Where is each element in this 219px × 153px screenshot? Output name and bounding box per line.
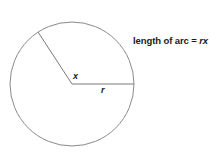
radius-label: r bbox=[101, 86, 105, 95]
formula-prefix: length of arc = bbox=[133, 35, 199, 46]
formula-variable: rx bbox=[199, 35, 208, 46]
angle-label: x bbox=[73, 72, 78, 81]
radius-angled bbox=[38, 32, 72, 84]
circle-diagram bbox=[0, 0, 219, 153]
arc-length-formula: length of arc = rx bbox=[133, 36, 208, 46]
